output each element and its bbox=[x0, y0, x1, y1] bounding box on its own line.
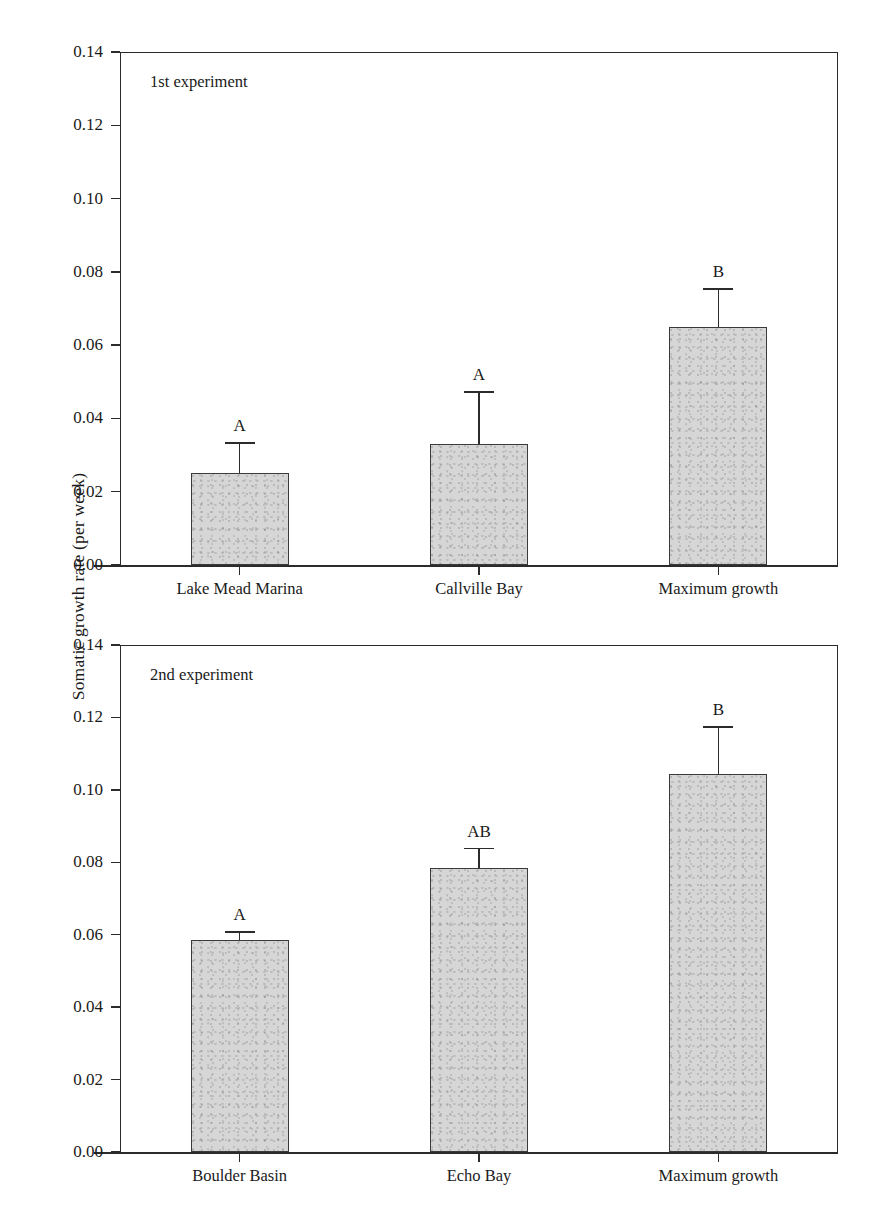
panel-title: 2nd experiment bbox=[150, 665, 253, 685]
y-axis-tick bbox=[111, 1079, 120, 1081]
y-axis-tick-label: 0.10 bbox=[15, 780, 103, 800]
y-axis-tick bbox=[111, 934, 120, 936]
x-axis-tick-label: Maximum growth bbox=[659, 1166, 779, 1186]
error-bar-cap bbox=[703, 726, 733, 728]
error-bar-stem bbox=[478, 848, 480, 868]
error-bar-cap bbox=[225, 931, 255, 933]
y-axis-tick-label: 0.14 bbox=[15, 635, 103, 655]
x-axis-tick-label: Boulder Basin bbox=[192, 1166, 287, 1186]
x-axis-tick-label: Echo Bay bbox=[447, 1166, 512, 1186]
x-axis-tick bbox=[478, 1153, 480, 1162]
bar[interactable] bbox=[191, 940, 289, 1152]
y-axis-tick bbox=[111, 1006, 120, 1008]
x-axis-tick bbox=[718, 1153, 720, 1162]
y-axis-tick bbox=[111, 717, 120, 719]
y-axis-tick-label: 0.00 bbox=[15, 1142, 103, 1162]
y-axis-tick bbox=[111, 862, 120, 864]
bar[interactable] bbox=[430, 868, 528, 1152]
y-axis-tick-label: 0.12 bbox=[15, 707, 103, 727]
y-axis-tick-label: 0.06 bbox=[15, 925, 103, 945]
y-axis-tick-label: 0.02 bbox=[15, 1070, 103, 1090]
y-axis-tick bbox=[111, 1151, 120, 1153]
significance-letter: A bbox=[234, 905, 246, 925]
y-axis-tick bbox=[111, 789, 120, 791]
x-axis-line bbox=[94, 1152, 838, 1154]
significance-letter: B bbox=[713, 700, 724, 720]
error-bar-cap bbox=[464, 848, 494, 850]
error-bar-stem bbox=[718, 726, 720, 773]
significance-letter: AB bbox=[467, 822, 491, 842]
y-axis-tick-label: 0.04 bbox=[15, 997, 103, 1017]
x-axis-tick bbox=[239, 1153, 241, 1162]
figure-canvas: Somatic growth rate (per week) 0.000.020… bbox=[0, 0, 882, 1216]
y-axis-tick bbox=[111, 644, 120, 646]
bar[interactable] bbox=[669, 774, 767, 1152]
y-axis-tick-label: 0.08 bbox=[15, 852, 103, 872]
chart-panel-bottom: 0.000.020.040.060.080.100.120.142nd expe… bbox=[0, 0, 882, 1216]
